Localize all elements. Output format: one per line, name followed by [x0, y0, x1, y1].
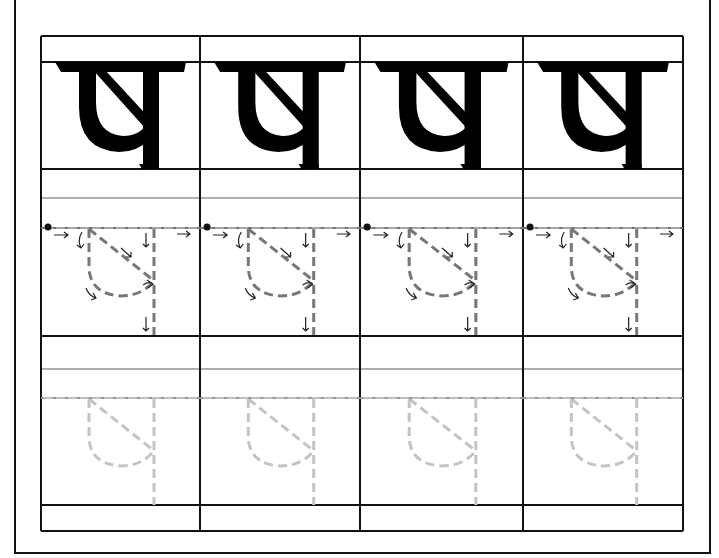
direction-arrow-icon [626, 317, 632, 331]
practice-letter [41, 398, 200, 505]
stroke-guide [41, 224, 200, 336]
direction-arrow-icon [465, 233, 471, 247]
direction-arrow-icon [337, 231, 350, 237]
headline [214, 62, 346, 72]
practice-letter [200, 398, 360, 505]
direction-arrow-icon [568, 288, 578, 300]
headline [374, 62, 508, 72]
direction-arrow-icon [499, 231, 512, 237]
practice-letter [360, 398, 523, 505]
stroke-guide [523, 224, 683, 336]
letter-model [214, 62, 346, 169]
direction-arrow-icon [77, 232, 84, 248]
diagonal-stroke [409, 399, 475, 450]
diagonal-stroke [571, 229, 635, 280]
bowl-stroke [89, 229, 153, 296]
direction-arrow-icon [626, 233, 632, 247]
direction-arrow-icon [559, 232, 566, 248]
headline [55, 62, 186, 72]
direction-arrow-icon [245, 288, 255, 300]
letter-model [537, 62, 669, 169]
start-dot [527, 224, 534, 231]
stem-foot [139, 164, 159, 169]
direction-arrow-icon [236, 232, 243, 248]
direction-arrow-icon [406, 288, 416, 300]
letter-model [55, 62, 186, 169]
bowl-stroke [248, 229, 312, 296]
diagonal-stroke [571, 399, 635, 450]
start-dot [364, 224, 371, 231]
direction-arrow-icon [143, 317, 149, 331]
start-dot [204, 224, 211, 231]
headline [537, 62, 669, 72]
stroke-guide [200, 224, 360, 336]
bowl-stroke [89, 399, 153, 466]
letter-model [374, 62, 508, 169]
bowl-stroke [409, 229, 475, 296]
stem-foot [622, 164, 642, 169]
handwriting-worksheet [0, 0, 719, 558]
diagonal-stroke [409, 229, 475, 280]
stem-foot [460, 164, 481, 169]
bowl-stroke [409, 399, 475, 466]
stroke-guide [360, 224, 523, 336]
direction-arrow-icon [536, 232, 550, 238]
practice-letter [523, 398, 683, 505]
direction-arrow-icon [54, 232, 68, 238]
direction-arrow-icon [373, 232, 387, 238]
bowl-stroke [571, 399, 635, 466]
direction-arrow-icon [177, 231, 190, 237]
direction-arrow-icon [660, 231, 673, 237]
direction-arrow-icon [397, 232, 404, 248]
bowl-stroke [248, 399, 312, 466]
direction-arrow-icon [86, 288, 96, 300]
direction-arrow-icon [143, 233, 149, 247]
direction-arrow-icon [465, 317, 471, 331]
start-dot [45, 224, 52, 231]
diagonal-stroke [89, 229, 153, 280]
diagonal-stroke [89, 399, 153, 450]
stem-foot [299, 164, 319, 169]
diagonal-stroke [248, 399, 312, 450]
bowl-stroke [571, 229, 635, 296]
direction-arrow-icon [303, 317, 309, 331]
direction-arrow-icon [213, 232, 227, 238]
diagonal-stroke [248, 229, 312, 280]
direction-arrow-icon [303, 233, 309, 247]
